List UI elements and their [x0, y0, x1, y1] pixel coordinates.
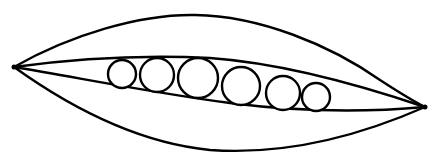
pea-2 [140, 58, 174, 92]
pea-pod-illustration: Open pea pod containing six peas [0, 0, 443, 165]
pea-4 [222, 67, 260, 105]
peas-group [108, 58, 330, 111]
pea-1 [108, 60, 136, 88]
pod-inner-top-edge [14, 57, 425, 107]
pea-pod-drawing [0, 0, 443, 165]
pea-6 [302, 83, 330, 111]
pod-right-tip [423, 105, 428, 110]
pea-5 [266, 76, 300, 110]
pea-3 [178, 58, 218, 98]
pod-outer-bottom-curve [14, 67, 425, 151]
pod-left-tip [12, 65, 17, 70]
